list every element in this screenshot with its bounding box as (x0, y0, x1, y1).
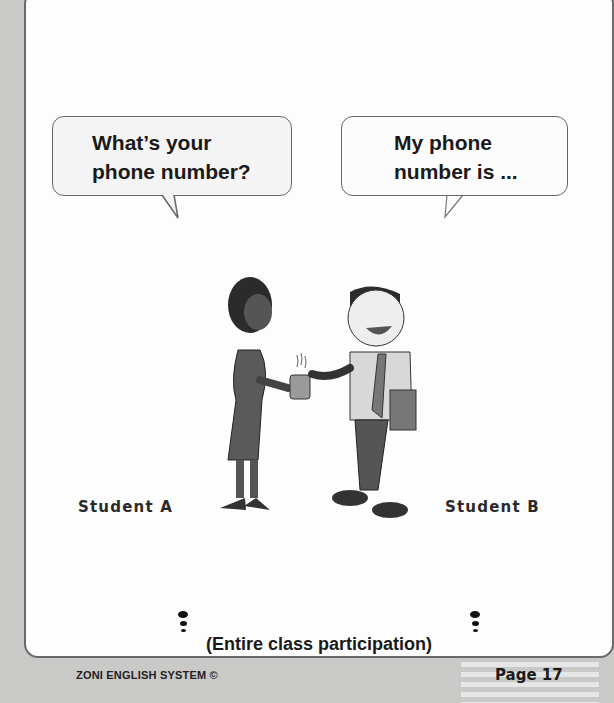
bubble-b-text: My phone number is ... (394, 128, 518, 186)
bubble-b-line1: My phone (394, 128, 518, 157)
coffee-mug-icon (290, 353, 310, 399)
bubble-a-line1: What’s your (92, 128, 251, 157)
instruction-text: (Entire class participation) (206, 634, 432, 655)
student-b-label: Student B (445, 498, 540, 516)
page-number: Page 17 (495, 666, 563, 684)
woman-figure-icon (220, 277, 288, 510)
student-a-label: Student A (78, 498, 173, 516)
bubble-b-line2: number is ... (394, 157, 518, 186)
dots-right-icon (468, 611, 482, 635)
dots-left-icon (176, 611, 190, 635)
footer-brand: ZONI ENGLISH SYSTEM © (76, 669, 218, 681)
bubble-a-text: What’s your phone number? (92, 128, 251, 186)
speech-bubble-student-b: My phone number is ... (341, 116, 568, 196)
students-illustration (200, 270, 440, 530)
bubble-b-tail-icon (443, 193, 467, 219)
speech-bubble-student-a: What’s your phone number? (52, 116, 292, 196)
man-figure-icon (312, 286, 416, 518)
bubble-a-tail-icon (160, 194, 190, 220)
bubble-a-line2: phone number? (92, 157, 251, 186)
